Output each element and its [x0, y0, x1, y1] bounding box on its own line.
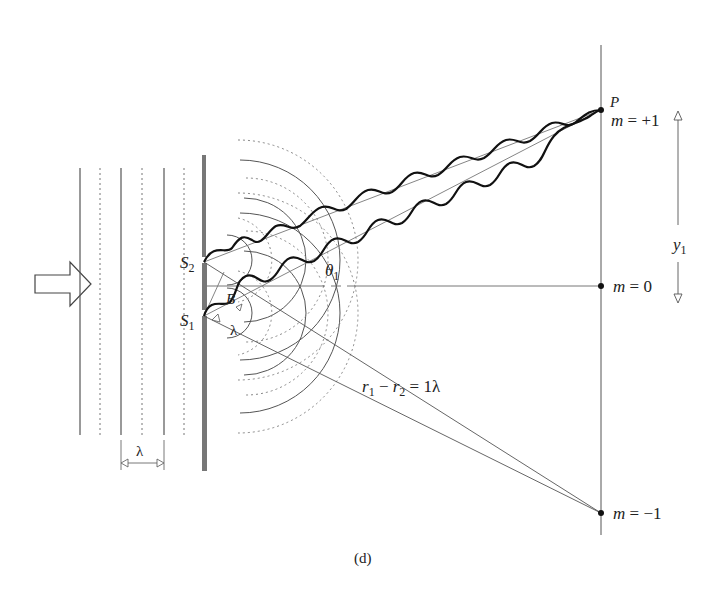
s2-label: S2	[180, 253, 195, 275]
slit-lambda-label: λ	[230, 322, 238, 338]
path-difference-label: r1 − r2 = 1λ	[362, 377, 441, 399]
y1-label: y1	[671, 235, 687, 257]
b-label: B	[226, 291, 235, 307]
order-minus1-label: m = −1	[613, 504, 661, 523]
wavefront-lambda-label: λ	[136, 443, 144, 459]
plane-wavefronts	[80, 168, 184, 435]
point-p	[598, 107, 604, 113]
y1-dimension-arrow	[674, 111, 682, 303]
figure-caption: (d)	[354, 550, 372, 567]
s1-label: S1	[180, 311, 195, 333]
double-slit-diagram: λ	[0, 0, 723, 606]
point-m-minus1	[598, 510, 604, 516]
order-plus1-label: m = +1	[611, 111, 659, 130]
circular-wavefronts	[227, 140, 358, 433]
point-p-label: P	[609, 94, 619, 110]
point-m0	[598, 283, 604, 289]
ray-s1-to-m-minus1	[204, 316, 601, 513]
theta1-label: θ1	[325, 261, 339, 283]
ray-s1-to-p	[204, 110, 601, 316]
incident-arrow-icon	[35, 262, 91, 306]
order-zero-label: m = 0	[613, 277, 652, 296]
